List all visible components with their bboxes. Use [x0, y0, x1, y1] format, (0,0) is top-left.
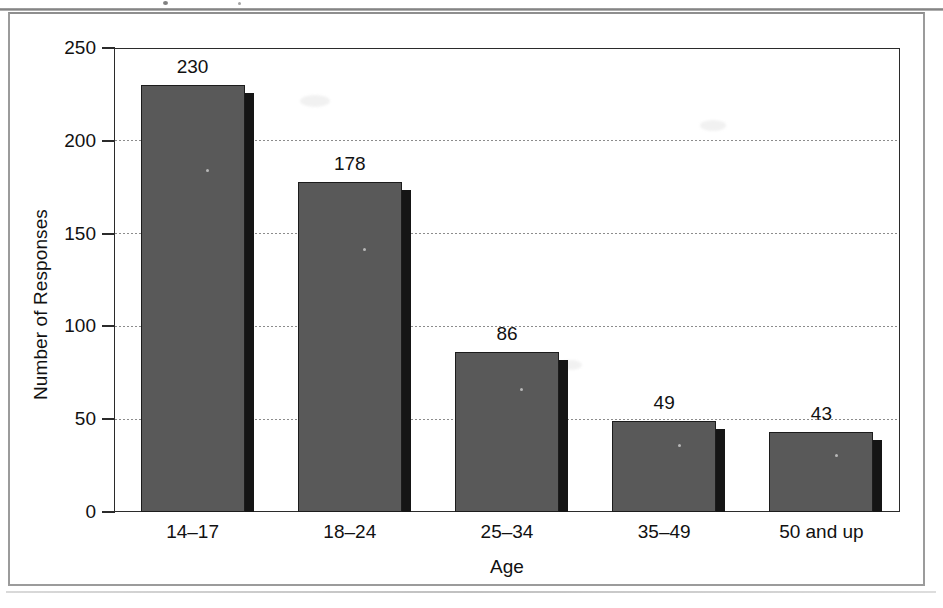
- scan-blotch: [700, 120, 726, 131]
- bar-value-label: 86: [435, 324, 579, 344]
- x-category-label: 25–34: [428, 522, 585, 542]
- y-axis-title: Number of Responses: [30, 80, 56, 400]
- y-tick-label: 250: [30, 38, 96, 57]
- y-tick-label: 50: [30, 409, 96, 428]
- bar-body[interactable]: [769, 432, 873, 512]
- scan-speck-icon: [520, 388, 523, 391]
- y-tick-mark: [102, 511, 115, 513]
- x-axis-title: Age: [114, 556, 900, 578]
- bar-body[interactable]: [298, 182, 402, 512]
- bar-body[interactable]: [612, 421, 716, 512]
- bar-chart: 250200150100500 230178864943 14–1718–242…: [0, 0, 943, 608]
- x-category-label: 18–24: [271, 522, 428, 542]
- scan-speck-icon: [206, 169, 209, 172]
- y-tick-mark: [102, 47, 115, 49]
- scan-blotch: [300, 95, 330, 107]
- y-tick-mark: [102, 140, 115, 142]
- y-tick-label: 0: [30, 502, 96, 521]
- x-category-label: 35–49: [586, 522, 743, 542]
- bar-value-label: 230: [121, 57, 265, 77]
- y-tick-mark: [102, 418, 115, 420]
- scan-speck-icon: [363, 248, 366, 251]
- bar-body[interactable]: [455, 352, 559, 512]
- scan-speck-icon: [835, 454, 838, 457]
- bar-value-label: 178: [278, 154, 422, 174]
- x-category-label: 50 and up: [743, 522, 900, 542]
- y-tick-mark: [102, 233, 115, 235]
- bar-value-label: 49: [592, 393, 736, 413]
- scan-speck-icon: [678, 444, 681, 447]
- bar-body[interactable]: [141, 85, 245, 512]
- x-category-label: 14–17: [114, 522, 271, 542]
- bar-value-label: 43: [749, 404, 893, 424]
- y-tick-mark: [102, 325, 115, 327]
- page-scan-bottom-rule: [6, 591, 936, 593]
